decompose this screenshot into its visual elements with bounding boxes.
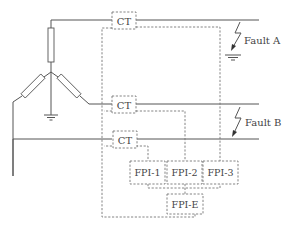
svg-text:CT: CT xyxy=(117,100,132,111)
fpi-box-3: FPI-3 xyxy=(203,161,238,184)
lightning-bolt-icon xyxy=(234,107,241,133)
resistor-left xyxy=(21,74,45,98)
ct-box-b: CT xyxy=(112,96,136,113)
secondary-wiring xyxy=(102,27,220,217)
svg-text:CT: CT xyxy=(118,135,133,146)
svg-text:Fault A: Fault A xyxy=(244,35,281,46)
svg-text:FPI-E: FPI-E xyxy=(172,199,199,210)
fpi-box-2: FPI-2 xyxy=(167,161,202,184)
svg-text:Fault B: Fault B xyxy=(245,117,281,128)
ground-icon xyxy=(44,115,58,120)
wye-source xyxy=(13,20,110,176)
svg-text:FPI-3: FPI-3 xyxy=(208,167,234,178)
fpi-box-1: FPI-1 xyxy=(130,161,165,184)
svg-text:CT: CT xyxy=(117,16,132,27)
lightning-bolt-icon xyxy=(233,22,241,47)
svg-text:FPI-2: FPI-2 xyxy=(172,167,198,178)
svg-text:FPI-1: FPI-1 xyxy=(135,167,161,178)
ground-icon xyxy=(225,55,241,60)
fault-b-marker: Fault B xyxy=(232,107,281,137)
fpi-box-e: FPI-E xyxy=(167,194,203,214)
ct-box-c: CT xyxy=(113,131,137,148)
fault-a-marker: Fault A xyxy=(225,22,281,60)
fault-indicator-diagram: CT CT CT FPI-1 FPI-2 FPI-3 FPI-E Fault A xyxy=(0,0,288,233)
ct-box-a: CT xyxy=(112,12,136,29)
resistor-right xyxy=(57,74,81,98)
resistor-top xyxy=(48,28,54,62)
